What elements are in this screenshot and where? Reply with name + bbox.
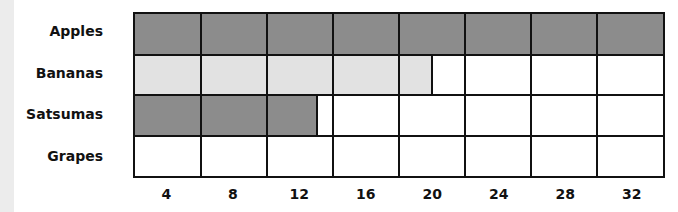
x-tick-label: 32 [612,186,652,202]
row-label-grapes: Grapes [47,148,103,164]
row-label-bananas: Bananas [36,65,103,81]
x-tick-label: 20 [412,186,452,202]
left-margin-strip [0,0,14,212]
bar-bananas [135,55,432,96]
x-tick-label: 16 [346,186,386,202]
grid-hline [135,135,663,137]
x-tick-label: 12 [279,186,319,202]
row-label-satsumas: Satsumas [26,106,103,122]
x-tick-label: 4 [146,186,186,202]
bar-end-line [431,55,433,96]
x-tick-label: 28 [545,186,585,202]
x-tick-label: 24 [479,186,519,202]
grid-hline [135,54,663,56]
bar-end-line [316,95,318,136]
grid-hline [135,94,663,96]
x-tick-label: 8 [213,186,253,202]
bar-satsumas [135,95,317,136]
row-label-apples: Apples [49,23,103,39]
chart-grid [133,12,665,178]
